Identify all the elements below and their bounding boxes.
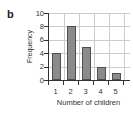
y-tick-label: 8 xyxy=(28,22,44,31)
bar-3 xyxy=(82,47,91,81)
y-tick-mark xyxy=(44,53,48,54)
plot-area xyxy=(48,13,130,81)
x-tick-mark xyxy=(48,81,49,85)
x-tick-mark xyxy=(63,81,64,85)
y-tick-label: 2 xyxy=(28,62,44,71)
x-tick-label: 5 xyxy=(109,87,123,96)
y-tick-mark xyxy=(44,40,48,41)
bar-4 xyxy=(97,67,106,80)
gridline-horizontal xyxy=(49,40,130,41)
gridline-horizontal xyxy=(49,26,130,27)
y-tick-label: 4 xyxy=(28,49,44,58)
x-tick-label: 4 xyxy=(94,87,108,96)
gridline-vertical xyxy=(124,13,125,80)
x-tick-mark xyxy=(93,81,94,85)
bar-5 xyxy=(112,73,121,80)
x-tick-mark xyxy=(123,81,124,85)
bar-1 xyxy=(52,53,61,80)
x-tick-label: 2 xyxy=(64,87,78,96)
y-tick-label: 0 xyxy=(28,76,44,85)
gridline-horizontal xyxy=(49,13,130,14)
x-tick-label: 1 xyxy=(49,87,63,96)
gridline-vertical xyxy=(79,13,80,80)
y-tick-mark xyxy=(44,67,48,68)
bar-chart-figure: b Frequency 024681012345 Number of child… xyxy=(0,0,133,117)
y-tick-label: 10 xyxy=(28,9,44,18)
x-tick-mark xyxy=(108,81,109,85)
x-axis-title: Number of children xyxy=(38,98,133,107)
gridline-vertical xyxy=(109,13,110,80)
gridline-vertical xyxy=(64,13,65,80)
y-tick-mark xyxy=(44,26,48,27)
panel-label: b xyxy=(7,8,14,20)
gridline-vertical xyxy=(94,13,95,80)
bar-2 xyxy=(67,26,76,80)
x-tick-label: 3 xyxy=(79,87,93,96)
x-tick-mark xyxy=(78,81,79,85)
y-tick-mark xyxy=(44,13,48,14)
y-tick-label: 6 xyxy=(28,35,44,44)
